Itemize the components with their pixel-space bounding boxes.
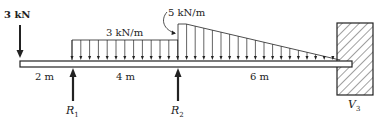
reaction-v3-label: V3 (348, 98, 360, 113)
span-label-2m: 2 m (35, 71, 55, 82)
reaction-r1-arrow-icon (70, 68, 77, 101)
reaction-r1-label: R1 (65, 104, 79, 119)
triangular-load-label: 5 kN/m (168, 7, 206, 18)
triangular-load-arrows-icon (185, 24, 334, 60)
leader-arrowhead-icon (172, 31, 177, 36)
span-label-4m: 4 m (116, 71, 136, 82)
reaction-r2-arrow-icon (175, 68, 182, 101)
beam-diagram: 3 kN 3 kN/m 5 kN/m 2 m 4 m 6 m R1 R2 V3 (0, 0, 383, 123)
point-load-label: 3 kN (4, 9, 31, 20)
reaction-r2-label: R2 (170, 104, 184, 119)
span-label-6m: 6 m (250, 71, 270, 82)
uniform-load-label: 3 kN/m (106, 27, 144, 38)
beam-diagram-svg: 3 kN 3 kN/m 5 kN/m 2 m 4 m 6 m R1 R2 V3 (0, 0, 383, 123)
fixed-wall-support (337, 23, 373, 95)
uniform-load-arrows-icon (71, 40, 180, 60)
beam (20, 61, 352, 67)
point-load-arrow-icon (17, 25, 24, 58)
